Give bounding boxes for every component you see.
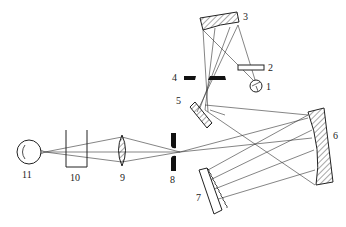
label-6: 6 — [333, 130, 338, 141]
collimating-mirror — [308, 108, 333, 185]
label-5: 5 — [176, 95, 181, 106]
detector — [17, 140, 41, 164]
label-8: 8 — [170, 174, 175, 185]
label-11: 11 — [22, 169, 32, 180]
filter — [238, 65, 264, 70]
sample-cell — [66, 130, 87, 167]
label-7: 7 — [196, 192, 201, 203]
label-4: 4 — [172, 72, 177, 83]
label-9: 9 — [120, 172, 125, 183]
label-3: 3 — [243, 11, 248, 22]
label-1: 1 — [266, 81, 271, 92]
concave-mirror-top — [200, 12, 239, 30]
diffraction-grating — [199, 168, 227, 214]
lamp — [250, 80, 262, 92]
entrance-slit — [184, 76, 226, 80]
label-2: 2 — [268, 62, 273, 73]
optical-diagram: 1 2 3 4 5 6 7 8 9 10 11 — [0, 0, 346, 227]
label-10: 10 — [70, 172, 80, 183]
